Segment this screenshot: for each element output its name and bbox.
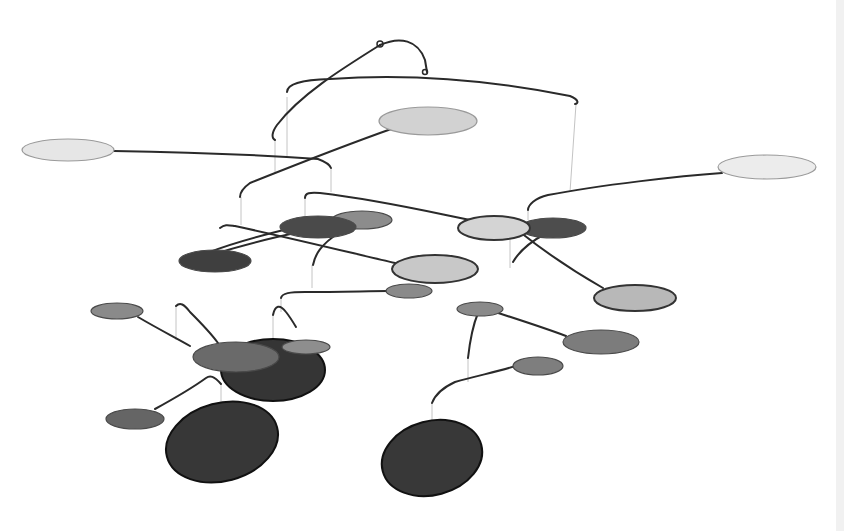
hooks bbox=[377, 41, 428, 75]
mobile-illustration bbox=[0, 0, 844, 531]
mobile-sculpture-photo bbox=[0, 0, 844, 531]
right-edge-strip bbox=[836, 0, 844, 531]
discs bbox=[22, 107, 816, 507]
